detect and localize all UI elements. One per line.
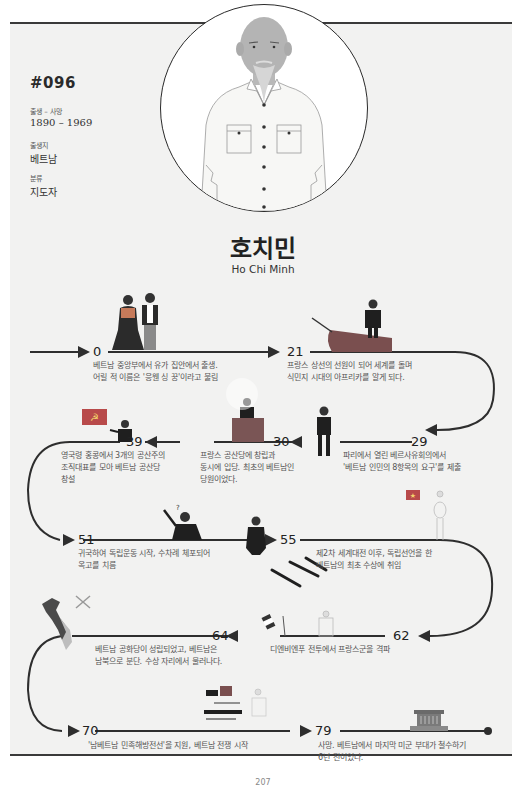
crossed-rifles-icon bbox=[76, 596, 90, 608]
vietnam-flag-icon: ★ bbox=[406, 490, 420, 500]
age-label-62: 62 bbox=[393, 628, 410, 643]
arrow-right-icon bbox=[78, 346, 90, 358]
arrow-right-icon bbox=[265, 534, 277, 546]
event-desc-64: 베트남 공화당이 성립되었고, 베트남은남북으로 분단. 수상 자리에서 물러나… bbox=[95, 644, 222, 668]
svg-text:☭: ☭ bbox=[90, 412, 99, 423]
event-desc-21: 프랑스 상선의 선원이 되어 세계를 돌며식민지 시대의 아프리카를 알게 되다… bbox=[287, 360, 412, 384]
arrow-right-icon bbox=[300, 725, 312, 737]
event-desc-70: '남베트남 민족해방전선'을 지원, 베트남 전쟁 시작 bbox=[88, 740, 248, 752]
age-label-70: 70 bbox=[82, 723, 99, 738]
arrow-left-icon bbox=[145, 436, 157, 448]
end-dot-icon bbox=[484, 727, 492, 735]
age-label-0: 0 bbox=[93, 344, 101, 359]
event-desc-0: 베트남 중앙부에서 유가 집안에서 출생.어릴 적 이름은 '응웬 싱 꿍'이라… bbox=[93, 360, 218, 384]
standing-figure-outline-icon bbox=[319, 611, 333, 636]
age-label-51: 51 bbox=[78, 532, 95, 547]
arrow-left-icon bbox=[418, 630, 430, 642]
arrow-right-icon bbox=[63, 534, 75, 546]
kneeling-man-illustration-icon bbox=[246, 517, 266, 556]
age-label-21: 21 bbox=[287, 344, 304, 359]
age-label-29: 29 bbox=[411, 434, 428, 449]
svg-text:★: ★ bbox=[410, 492, 416, 500]
event-desc-29: 파리에서 열린 베르사유회의에서'베트남 인민의 8항목의 요구'를 제출 bbox=[343, 450, 461, 474]
arrow-right-icon bbox=[268, 346, 280, 358]
ho-chi-minh-figure-icon bbox=[434, 491, 446, 540]
podium-illustration-icon bbox=[226, 378, 264, 442]
timeline-track: ☭ ? ★ bbox=[0, 0, 526, 787]
standing-man-illustration-icon bbox=[317, 407, 331, 457]
page-number: 207 bbox=[0, 778, 526, 787]
arrow-left-icon bbox=[290, 436, 302, 448]
event-desc-62: 디엔비엔푸 전투에서 프랑스군을 격파 bbox=[270, 644, 390, 656]
age-label-39: 39 bbox=[126, 434, 143, 449]
mausoleum-icon bbox=[410, 710, 448, 731]
boat-illustration-icon bbox=[312, 300, 392, 353]
event-desc-79: 사망. 베트남에서 마지막 미군 부대가 철수하기6년 전이었다. bbox=[318, 740, 466, 764]
age-label-30: 30 bbox=[273, 434, 290, 449]
parents-illustration-icon bbox=[112, 293, 158, 350]
age-label-79: 79 bbox=[315, 723, 332, 738]
event-desc-51: 귀국하여 독립운동 시작, 수차례 체포되어옥고를 치름 bbox=[78, 548, 210, 572]
age-label-64: 64 bbox=[212, 628, 229, 643]
event-desc-55: 제2차 세계대전 이후, 독립선언을 한베트남의 최초 수상에 취임 bbox=[316, 548, 432, 572]
age-label-55: 55 bbox=[280, 532, 297, 547]
supplies-illustration-icon bbox=[204, 686, 266, 720]
event-desc-39: 영국령 홍콩에서 3개의 공산주의조직대표를 모아 베트남 공산당창설 bbox=[61, 450, 165, 486]
communist-flag-icon: ☭ bbox=[82, 409, 107, 425]
arrow-right-icon bbox=[68, 725, 80, 737]
french-flag-icon bbox=[262, 614, 285, 636]
protest-man-illustration-icon: ? bbox=[164, 504, 202, 540]
event-desc-30: 프랑스 공산당에 창립과동시에 입당. 최초의 베트남인당원이었다. bbox=[200, 450, 294, 486]
svg-text:?: ? bbox=[176, 504, 180, 512]
